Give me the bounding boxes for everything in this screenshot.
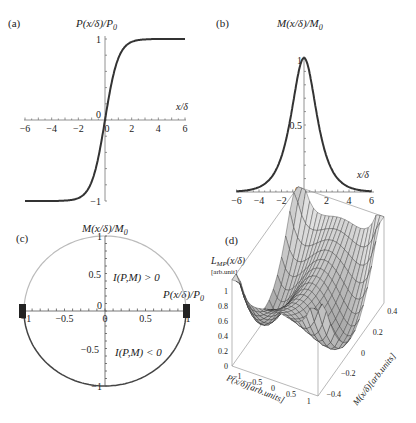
panel-c-label: (c)	[16, 232, 29, 245]
tick-label: −0.5	[81, 344, 99, 355]
tick-label: −1	[91, 381, 102, 392]
tick-label: 0	[97, 300, 102, 311]
tick-label: 1	[307, 397, 311, 406]
tick-label: 0.4	[387, 307, 397, 316]
tick-label: −0.5	[55, 313, 73, 324]
tick-label: 0.4	[218, 332, 228, 341]
tick-label: 2	[129, 123, 134, 134]
tick-label: 0	[105, 123, 110, 134]
panel-a-xlabel: x/δ	[175, 101, 188, 112]
panel-d-zlabel: LMP(x/δ)	[210, 255, 246, 268]
tick-label: 0.8	[218, 302, 228, 311]
panel-b-ylabel: M(x/δ)/M0	[276, 17, 323, 32]
tick-label: 0.2	[218, 347, 228, 356]
tick-label: 0	[224, 362, 228, 371]
panel-c-upper-annotation: I(P,M) > 0	[112, 271, 160, 284]
tick-label: 0	[96, 109, 101, 120]
tick-label: 4	[156, 123, 161, 134]
tick-label: 6	[369, 195, 374, 206]
tick-label: 0.2	[373, 328, 383, 337]
tick-label: −6	[20, 123, 31, 134]
tick-label: 0	[361, 349, 365, 358]
tick-label: 6	[183, 123, 188, 134]
panel-b-label: (b)	[216, 17, 229, 30]
tick-label: −4	[46, 123, 57, 134]
tick-label: −4	[254, 195, 265, 206]
tick-label: −0.4	[326, 390, 341, 399]
panel-c-ylabel: M(x/δ)/M0	[81, 222, 128, 237]
tick-label: 0.5	[139, 313, 152, 324]
panel-d-zunit: [arb.unit]	[211, 268, 237, 276]
panel-c-right-marker	[183, 304, 190, 318]
panel-a: (a) P(x/δ)/P0 x/δ −6−4−2246001−1	[8, 17, 188, 207]
tick-label: −2	[73, 123, 84, 134]
tick-label: 0.5	[89, 269, 102, 280]
panel-c-lower-annotation: I(P,M) < 0	[114, 346, 162, 359]
panel-a-ylabel: P(x/δ)/P0	[75, 17, 117, 32]
tick-label: −1	[90, 196, 101, 207]
tick-label: 0.5	[290, 120, 303, 131]
tick-label: 0	[103, 313, 108, 324]
panel-d-ylabel: M(x/δ)[arb.units]	[350, 351, 398, 408]
tick-label: 0.5	[286, 390, 296, 399]
tick-label: −0.2	[341, 369, 356, 378]
panel-c-left-marker	[19, 304, 26, 318]
figure: (a) P(x/δ)/P0 x/δ −6−4−2246001−1 (b) M(x…	[0, 0, 416, 423]
tick-label: −6	[231, 195, 242, 206]
tick-label: 1	[96, 34, 101, 45]
panel-b: (b) M(x/δ)/M0 x/δ −6−4−2024610.50	[216, 17, 374, 206]
panel-d: (d) LMP(x/δ) [arb.unit] 10.80.60.40.20−1…	[210, 187, 398, 408]
tick-label: 1	[224, 287, 228, 296]
panel-c: (c) M(x/δ)/M0 P(x/δ)/P0 I(P,M) > 0 I(P,M…	[16, 222, 204, 392]
panel-a-label: (a)	[8, 17, 21, 30]
panel-b-xlabel: x/δ	[356, 169, 369, 180]
tick-label: 1	[97, 231, 102, 242]
tick-label: 0.6	[218, 317, 228, 326]
panel-d-label: (d)	[225, 234, 238, 247]
